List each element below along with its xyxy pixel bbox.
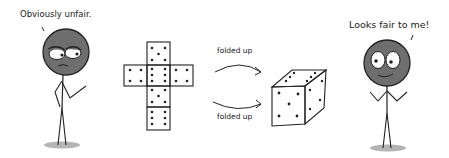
pupil-left-2 bbox=[75, 52, 78, 55]
arm-gesture-left bbox=[62, 82, 86, 98]
net-face-middle-left bbox=[124, 65, 147, 86]
arrow-top bbox=[215, 65, 261, 72]
speech-tick-left bbox=[42, 27, 44, 31]
speech-bubble-left: Obviously unfair. bbox=[20, 9, 91, 19]
folded-die-pips bbox=[278, 72, 324, 118]
pupil-right-2 bbox=[389, 60, 393, 64]
fold-arrows bbox=[213, 65, 261, 109]
die-face-top bbox=[272, 70, 326, 87]
net-face-middle-center bbox=[147, 65, 170, 86]
ground-shadow-left bbox=[44, 142, 80, 149]
eye-right-1 bbox=[371, 52, 385, 69]
leg-right-2 bbox=[387, 113, 391, 148]
pupil-left-1 bbox=[60, 53, 63, 56]
net-face-bottom bbox=[147, 107, 170, 130]
arm-shrug-right-1 bbox=[370, 91, 387, 101]
right-character bbox=[364, 35, 413, 152]
ground-shadow-right bbox=[370, 145, 406, 152]
leg-left-2 bbox=[62, 108, 66, 145]
arrow-label-bottom: folded up bbox=[217, 112, 252, 121]
die-face-front bbox=[272, 86, 305, 126]
pupil-right-1 bbox=[374, 59, 378, 63]
comic-panel: Obviously unfair. Looks fair to me! fold… bbox=[0, 0, 449, 158]
arrow-bottom-head bbox=[256, 100, 261, 108]
die-face-right bbox=[305, 70, 326, 124]
arm-hip-left bbox=[55, 81, 62, 107]
arrow-top-head bbox=[255, 67, 261, 75]
arrow-label-top: folded up bbox=[217, 46, 252, 55]
net-face-middle-right bbox=[170, 65, 193, 86]
left-character bbox=[42, 27, 89, 149]
leg-right-1 bbox=[383, 113, 387, 148]
eye-right-2 bbox=[386, 52, 400, 69]
arm-shrug-right-2 bbox=[387, 91, 407, 101]
speech-tick-right bbox=[411, 35, 413, 40]
leg-left-1 bbox=[58, 108, 62, 145]
speech-bubble-right: Looks fair to me! bbox=[349, 19, 429, 30]
arrow-bottom bbox=[213, 102, 261, 109]
torso-left bbox=[62, 75, 63, 108]
folded-die bbox=[272, 70, 326, 126]
